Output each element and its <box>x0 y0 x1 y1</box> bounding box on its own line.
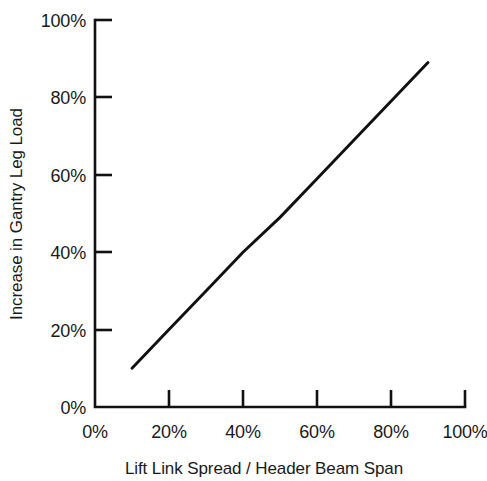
x-tick-label-40: 40% <box>225 422 261 442</box>
y-tick-label-0: 0% <box>60 398 86 418</box>
y-tick-label-80: 80% <box>51 88 87 108</box>
x-axis-title: Lift Link Spread / Header Beam Span <box>125 459 403 478</box>
x-tick-label-0: 0% <box>82 422 108 442</box>
y-tick-label-60: 60% <box>51 166 87 186</box>
x-tick-label-20: 20% <box>151 422 187 442</box>
y-axis-title: Increase in Gantry Leg Load <box>7 108 26 320</box>
x-tick-label-80: 80% <box>373 422 409 442</box>
x-tick-label-100: 100% <box>442 422 487 442</box>
y-tick-label-100: 100% <box>41 11 86 31</box>
chart-canvas: 100% 80% 60% 40% 20% 0% 0% 20% 40% 60% 8… <box>0 0 487 481</box>
y-tick-label-20: 20% <box>51 321 87 341</box>
x-tick-label-60: 60% <box>299 422 335 442</box>
chart-figure: 100% 80% 60% 40% 20% 0% 0% 20% 40% 60% 8… <box>0 0 487 481</box>
y-tick-label-40: 40% <box>51 243 87 263</box>
